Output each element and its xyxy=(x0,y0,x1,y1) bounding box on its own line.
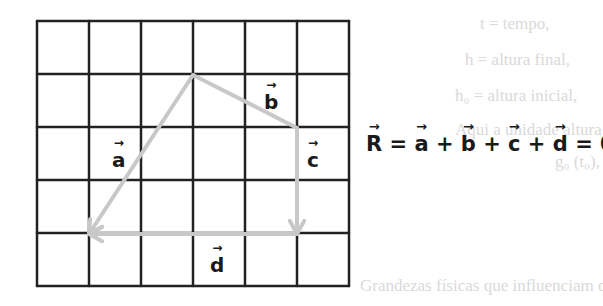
eq-a: a xyxy=(414,132,428,156)
eq-c: c xyxy=(508,132,520,156)
eq-d: d xyxy=(553,132,568,156)
resultant-equation: R = a + b + c + d = 0 xyxy=(366,132,603,156)
label-vector-c: c xyxy=(307,148,319,172)
eq-equals: = xyxy=(575,132,593,156)
eq-R: R xyxy=(366,132,382,156)
eq-plus: + xyxy=(436,132,454,156)
eq-b: b xyxy=(461,132,476,156)
eq-plus: + xyxy=(528,132,546,156)
label-vector-a: a xyxy=(112,148,126,172)
eq-plus: + xyxy=(483,132,501,156)
eq-equals: = xyxy=(389,132,407,156)
label-vector-b: b xyxy=(264,90,278,114)
label-vector-d: d xyxy=(210,253,224,277)
